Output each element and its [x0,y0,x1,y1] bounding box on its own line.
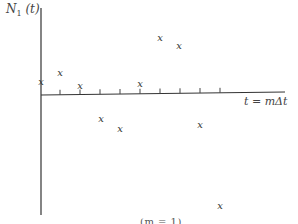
data-point-x-marker: x [57,67,63,78]
data-point-x-marker: x [217,200,223,211]
data-points: xxxxxxxxxx [38,32,223,211]
data-point-x-marker: x [117,123,123,134]
x-axis-label: t = mΔt [244,95,287,108]
y-axis-label: N1 (t) [6,2,40,18]
data-point-x-marker: x [176,40,182,51]
data-point-x-marker: x [137,78,143,89]
data-point-x-marker: x [157,32,163,43]
figure-caption-partial: (m = 1) [140,216,182,224]
data-point-x-marker: x [197,119,203,130]
scatter-plot: xxxxxxxxxx [0,0,298,224]
data-point-x-marker: x [98,113,104,124]
data-point-x-marker: x [38,76,44,87]
data-point-x-marker: x [77,80,83,91]
